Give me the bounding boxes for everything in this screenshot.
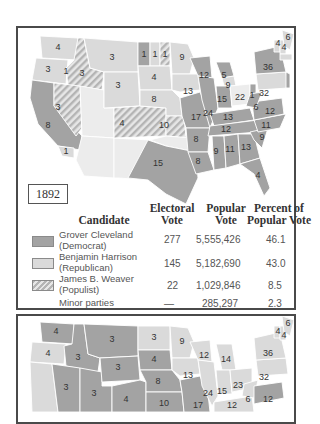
state-wy [104, 72, 140, 108]
svg-text:8: 8 [151, 94, 156, 104]
svg-text:24: 24 [203, 108, 213, 118]
candidate-name: Benjamin Harrison (Republican) [59, 252, 137, 273]
svg-text:17: 17 [193, 400, 203, 410]
svg-text:14: 14 [221, 354, 231, 364]
svg-text:3: 3 [115, 362, 120, 372]
svg-text:4: 4 [255, 170, 260, 180]
svg-text:1: 1 [63, 66, 68, 76]
svg-text:5: 5 [221, 70, 226, 80]
svg-text:12: 12 [265, 106, 275, 116]
svg-text:9: 9 [259, 132, 264, 142]
svg-text:8: 8 [45, 120, 50, 130]
candidate-name: James B. Weaver (Populist) [59, 274, 134, 295]
svg-text:36: 36 [263, 62, 273, 72]
svg-text:1: 1 [162, 49, 167, 59]
svg-text:9: 9 [213, 146, 218, 156]
svg-text:3: 3 [109, 52, 114, 62]
svg-text:9: 9 [179, 52, 184, 62]
svg-text:13: 13 [183, 86, 193, 96]
header-electoral-line1: Electoral [142, 202, 202, 214]
popular-vote: 5,182,690 [196, 258, 241, 269]
header-candidate: Candidate [64, 214, 144, 226]
svg-text:3: 3 [91, 388, 96, 398]
legend-swatch-democrat [32, 236, 54, 247]
svg-text:6: 6 [245, 394, 250, 404]
svg-text:10: 10 [159, 120, 169, 130]
state-co [112, 380, 146, 412]
svg-text:17: 17 [191, 112, 201, 122]
legend-swatch-republican [32, 258, 54, 269]
candidate-name: Minor parties [59, 298, 114, 309]
popular-vote: 5,555,426 [196, 234, 241, 245]
svg-text:24: 24 [203, 388, 213, 398]
svg-text:3: 3 [75, 352, 80, 362]
svg-text:6: 6 [253, 102, 258, 112]
svg-text:4: 4 [151, 354, 156, 364]
svg-text:4: 4 [119, 118, 124, 128]
electoral-vote: — [164, 298, 174, 309]
candidate-party: (Populist) [59, 285, 134, 296]
svg-text:32: 32 [259, 372, 269, 382]
svg-text:1: 1 [141, 49, 146, 59]
svg-text:4: 4 [45, 348, 50, 358]
svg-text:3: 3 [151, 332, 156, 342]
us-electoral-map-2: 4 4 3 3 3 3 3 4 3 4 8 10 9 12 14 13 24 1… [18, 316, 294, 412]
header-electoral-vote: Electoral Vote [142, 202, 202, 226]
svg-text:4: 4 [151, 72, 156, 82]
state-az [76, 136, 114, 178]
us-electoral-map-1892: 4 3 1 3 3 8 1 3 3 4 1 1 1 4 8 10 15 9 13… [18, 28, 294, 208]
svg-text:23: 23 [233, 380, 243, 390]
header-percent-popular-vote: Percent of Popular Vote [236, 202, 320, 226]
svg-text:8: 8 [195, 156, 200, 166]
svg-text:3: 3 [109, 334, 114, 344]
svg-text:13: 13 [183, 370, 193, 380]
svg-text:3: 3 [63, 382, 68, 392]
svg-text:4: 4 [123, 394, 128, 404]
svg-text:22: 22 [235, 92, 245, 102]
electoral-vote: 145 [164, 258, 181, 269]
svg-text:4: 4 [55, 42, 60, 52]
header-electoral-line2: Vote [142, 214, 202, 226]
svg-text:3: 3 [55, 102, 60, 112]
candidate-name-line1: Grover Cleveland [59, 230, 133, 241]
svg-text:12: 12 [221, 124, 231, 134]
state-pa [256, 72, 288, 90]
state-nj [286, 72, 290, 88]
svg-text:36: 36 [263, 348, 273, 358]
svg-text:12: 12 [263, 394, 273, 404]
svg-text:15: 15 [217, 94, 227, 104]
svg-text:11: 11 [261, 120, 270, 130]
candidate-name: Grover Cleveland (Democrat) [59, 230, 133, 251]
svg-text:32: 32 [259, 88, 269, 98]
svg-text:12: 12 [199, 350, 209, 360]
percent-popular-vote: 2.3 [268, 298, 282, 309]
svg-text:13: 13 [241, 142, 251, 152]
svg-text:3: 3 [115, 80, 120, 90]
election-map-1892-panel: 4 3 1 3 3 8 1 3 3 4 1 1 1 4 8 10 15 9 13… [16, 26, 296, 310]
svg-text:12: 12 [227, 400, 237, 410]
candidate-name-line1: James B. Weaver [59, 274, 134, 285]
svg-text:3: 3 [79, 68, 84, 78]
candidate-party: (Democrat) [59, 241, 133, 252]
popular-vote: 1,029,846 [196, 280, 241, 291]
svg-text:3: 3 [45, 64, 50, 74]
table-row-harrison: Benjamin Harrison (Republican) 145 5,182… [26, 252, 292, 274]
candidate-name-line1: Benjamin Harrison [59, 252, 137, 263]
state-ma [280, 54, 292, 60]
svg-text:10: 10 [159, 398, 169, 408]
percent-popular-vote: 8.5 [268, 280, 282, 291]
svg-text:9: 9 [225, 80, 230, 90]
svg-text:6: 6 [285, 318, 290, 328]
svg-text:12: 12 [199, 70, 209, 80]
svg-text:4: 4 [53, 326, 58, 336]
svg-text:8: 8 [155, 376, 160, 386]
svg-text:1: 1 [152, 49, 157, 59]
svg-text:1: 1 [249, 90, 254, 100]
year-label: 1892 [28, 184, 68, 204]
popular-vote: 285,297 [202, 298, 238, 309]
svg-text:11: 11 [225, 144, 234, 154]
svg-text:6: 6 [285, 32, 290, 42]
svg-text:8: 8 [193, 134, 198, 144]
percent-popular-vote: 46.1 [266, 234, 285, 245]
percent-popular-vote: 43.0 [266, 258, 285, 269]
